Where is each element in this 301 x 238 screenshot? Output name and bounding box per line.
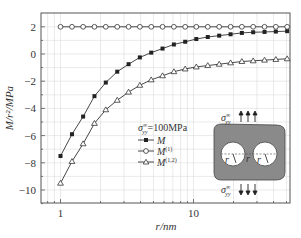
y-tick-label: −2 [24,75,36,87]
y-tick-label: −4 [24,102,36,114]
radius-label-left: r [225,154,229,165]
y-tick-label: 2 [31,21,37,33]
chart: 20−2−4−6−8−10 110 r r r σ∞yy σ∞yy [0,0,301,238]
legend-entry-m12: M(1,2) [138,157,177,168]
arrows-down [239,184,257,195]
svg-text:M(1,2): M(1,2) [156,157,177,168]
svg-text:M(1): M(1) [156,146,172,157]
radius-label-right: r [257,154,261,165]
y-tick-label: −10 [19,184,37,196]
y-tick-label: −8 [24,157,36,169]
x-axis-ticks: 110 [48,199,287,219]
series-m1 [58,24,289,29]
y-axis-label: M/r²/MPa [3,85,15,131]
svg-text:M: M [156,135,166,146]
stress-label-top: σ∞yy [221,112,231,125]
y-tick-label: −6 [24,130,36,142]
x-axis-label: r/nm [156,220,177,232]
stress-label-bottom: σ∞yy [221,184,231,197]
legend-title: σ∞yy=100MPa [138,122,188,135]
inset-diagram: r r r σ∞yy σ∞yy [214,111,285,197]
x-tick-label: 10 [188,207,200,219]
legend: σ∞yy=100MPa M M(1) M(1,2) [138,122,188,168]
arrows-up [239,111,257,122]
x-tick-label: 1 [58,207,64,219]
legend-entry-m: M [138,135,166,146]
gap-label: r [246,153,250,164]
y-tick-label: 0 [31,48,37,60]
legend-entry-m1: M(1) [138,146,172,157]
